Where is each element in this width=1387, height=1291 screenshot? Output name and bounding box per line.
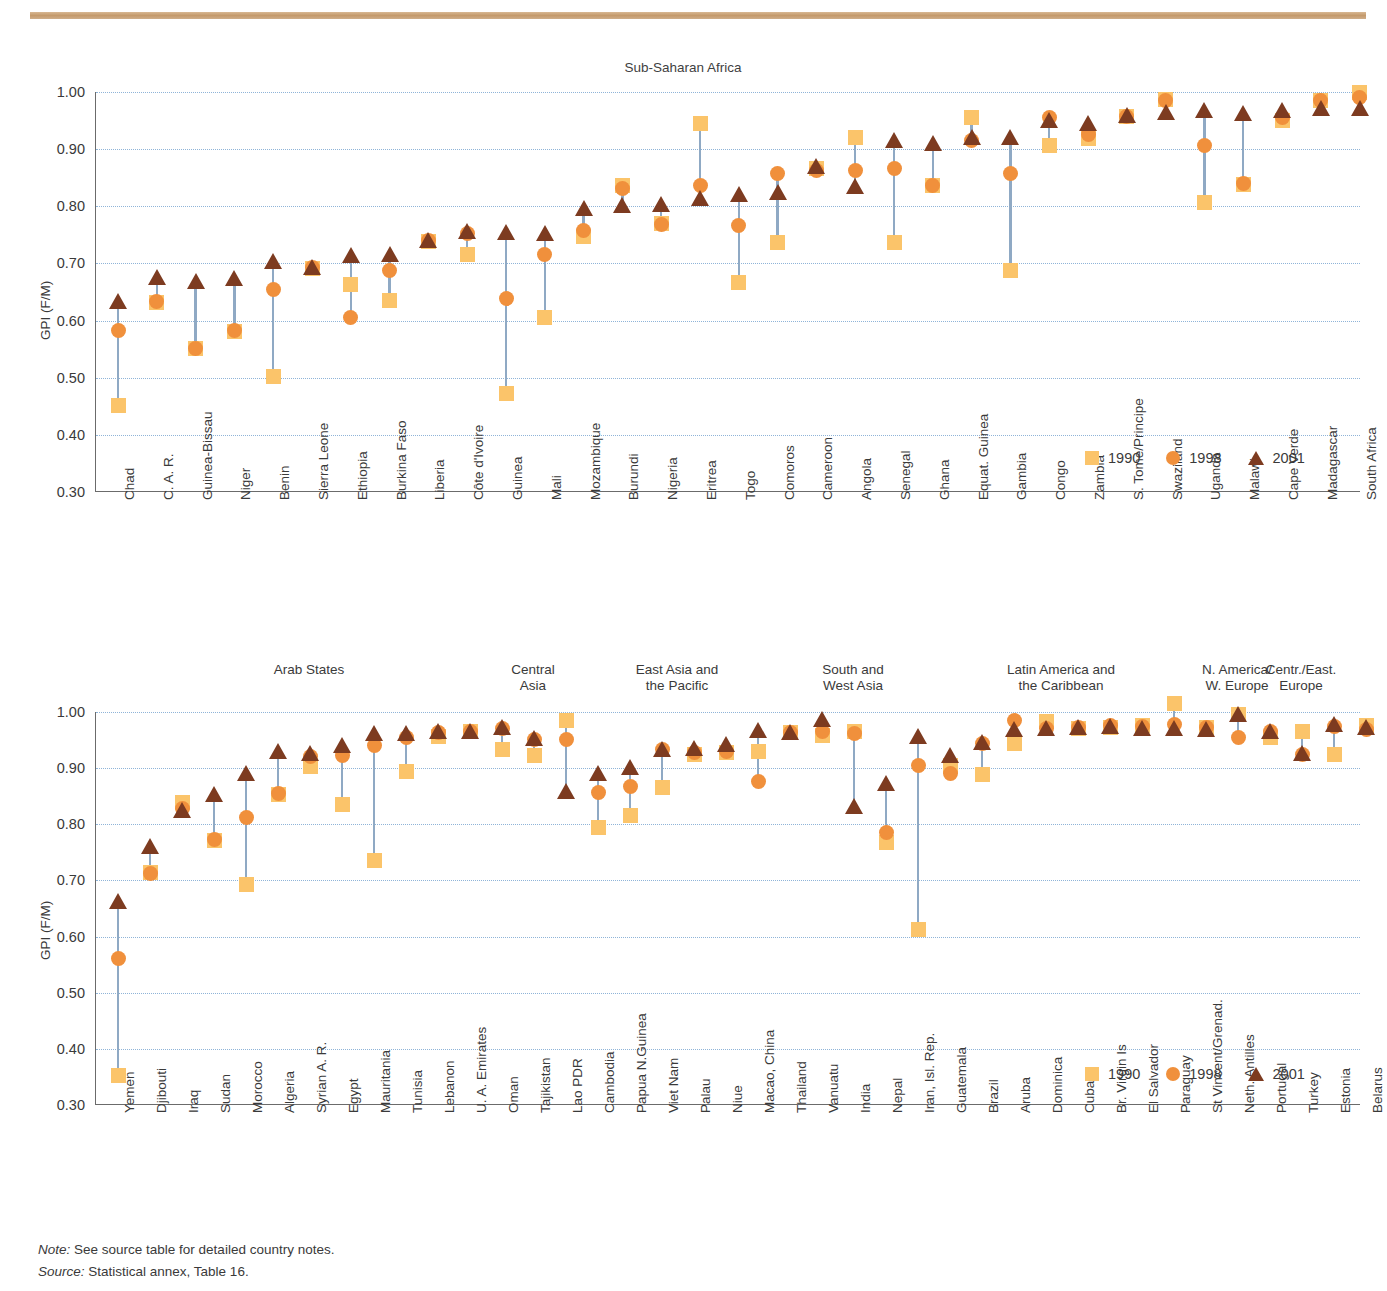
triangle-marker <box>557 783 575 799</box>
square-marker <box>399 764 414 779</box>
y-tick-label: 0.50 <box>0 985 85 1001</box>
triangle-marker <box>924 135 942 151</box>
square-marker <box>1042 138 1057 153</box>
x-tick-label: Niue <box>730 1085 745 1113</box>
x-tick-label: Estonia <box>1338 1068 1353 1113</box>
square-marker <box>499 386 514 401</box>
x-tick-label: Mauritania <box>378 1050 393 1113</box>
x-tick-label: C. A. R. <box>161 453 176 500</box>
x-tick-label: Liberia <box>432 459 447 500</box>
legend-label: 1998 <box>1189 1066 1221 1082</box>
triangle-marker <box>1293 745 1311 761</box>
triangle-marker <box>303 259 321 275</box>
legend-2: 199019982001 <box>1085 1066 1305 1082</box>
circle-marker <box>1166 1067 1180 1081</box>
gridline <box>96 378 1360 379</box>
triangle-marker <box>877 775 895 791</box>
triangle-marker <box>237 765 255 781</box>
triangle-marker <box>1005 721 1023 737</box>
x-tick-label: Tajikistan <box>538 1057 553 1113</box>
connector-line <box>1203 111 1205 202</box>
x-tick-label: Aruba <box>1018 1077 1033 1113</box>
circle-marker <box>111 323 126 338</box>
circle-marker <box>343 310 358 325</box>
triangle-marker <box>1157 104 1175 120</box>
square-marker <box>367 853 382 868</box>
triangle-marker <box>846 178 864 194</box>
source-label: Source: <box>38 1264 85 1279</box>
connector-line <box>245 774 247 885</box>
triangle-marker <box>1197 721 1215 737</box>
x-tick-label: Egypt <box>346 1078 361 1113</box>
x-tick-label: Chad <box>122 468 137 500</box>
circle-marker <box>559 732 574 747</box>
gridline <box>96 149 1360 150</box>
square-marker <box>495 742 510 757</box>
y-tick-label: 0.30 <box>0 484 85 500</box>
x-tick-label: Iran, Isl. Rep. <box>922 1033 937 1113</box>
connector-line <box>194 282 196 349</box>
triangle-marker <box>493 719 511 735</box>
y-tick-label: 0.90 <box>0 760 85 776</box>
circle-marker <box>1166 451 1180 465</box>
triangle-marker <box>264 253 282 269</box>
legend-item: 1998 <box>1166 1066 1221 1082</box>
x-tick-label: Brazil <box>986 1079 1001 1113</box>
triangle-marker <box>497 224 515 240</box>
x-tick-label: Algeria <box>282 1071 297 1113</box>
connector-line <box>117 902 119 1075</box>
legend-label: 2001 <box>1273 1066 1305 1082</box>
triangle-marker <box>1001 129 1019 145</box>
x-tick-label: Tunisia <box>410 1070 425 1113</box>
triangle-marker <box>1248 451 1264 465</box>
gridline <box>96 206 1360 207</box>
y-tick-label: 0.60 <box>0 313 85 329</box>
triangle-marker <box>461 723 479 739</box>
x-tick-label: Nepal <box>890 1078 905 1113</box>
square-marker <box>1085 451 1099 465</box>
triangle-marker <box>1261 723 1279 739</box>
circle-marker <box>887 161 902 176</box>
triangle-marker <box>1118 107 1136 123</box>
y-tick-label: 0.40 <box>0 427 85 443</box>
triangle-marker <box>885 132 903 148</box>
triangle-marker <box>173 802 191 818</box>
triangle-marker <box>613 197 631 213</box>
gridline <box>96 880 1360 881</box>
square-marker <box>693 116 708 131</box>
square-marker <box>964 110 979 125</box>
circle-marker <box>751 774 766 789</box>
circle-marker <box>731 218 746 233</box>
circle-marker <box>382 263 397 278</box>
circle-marker <box>654 217 669 232</box>
x-tick-label: Mozambique <box>588 423 603 500</box>
square-marker <box>887 235 902 250</box>
x-tick-label: Lebanon <box>442 1060 457 1113</box>
x-tick-label: Ethiopia <box>355 451 370 500</box>
source-text: Statistical annex, Table 16. <box>85 1264 249 1279</box>
y-tick-label: 1.00 <box>0 704 85 720</box>
legend-item: 1998 <box>1166 450 1221 466</box>
x-tick-label: Burkina Faso <box>394 420 409 500</box>
x-tick-label: Belarus <box>1370 1067 1385 1113</box>
region-header: Centr./East. Europe <box>1199 662 1387 694</box>
triangle-marker <box>1357 719 1375 735</box>
legend-1: 199019982001 <box>1085 450 1305 466</box>
square-marker <box>527 748 542 763</box>
triangle-marker <box>419 232 437 248</box>
triangle-marker <box>653 741 671 757</box>
x-tick-label: Nigeria <box>665 457 680 500</box>
chart-title-1: Sub-Saharan Africa <box>0 60 1366 75</box>
y-tick-label: 0.30 <box>0 1097 85 1113</box>
circle-marker <box>1236 176 1251 191</box>
y-tick-label: 0.80 <box>0 198 85 214</box>
header-rule <box>30 12 1366 19</box>
square-marker <box>382 293 397 308</box>
gridline <box>96 993 1360 994</box>
circle-marker <box>615 181 630 196</box>
legend-label: 1990 <box>1108 1066 1140 1082</box>
triangle-marker <box>781 724 799 740</box>
circle-marker <box>623 779 638 794</box>
connector-line <box>505 233 507 393</box>
triangle-marker <box>1195 102 1213 118</box>
